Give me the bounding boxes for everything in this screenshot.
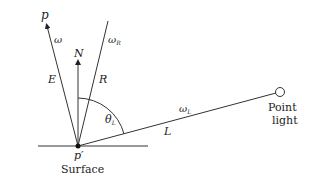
label-point: Point [268, 101, 297, 114]
label-omega-r: ωR [108, 34, 121, 46]
label-light: light [272, 114, 298, 127]
surface-point [76, 144, 81, 149]
label-omega-l: ωL [179, 103, 191, 115]
eye-vector [47, 26, 78, 146]
lighting-diagram: p ω ωR N E R θL ωL L p′ Surface Point li… [0, 0, 309, 176]
label-E: E [47, 73, 56, 86]
label-p: p [41, 8, 49, 22]
label-surface: Surface [61, 163, 104, 176]
label-R: R [98, 73, 107, 86]
point-light-icon [276, 88, 285, 97]
label-L: L [163, 125, 171, 138]
label-p-prime: p′ [74, 149, 84, 162]
label-N: N [73, 47, 84, 60]
label-omega: ω [54, 34, 62, 45]
